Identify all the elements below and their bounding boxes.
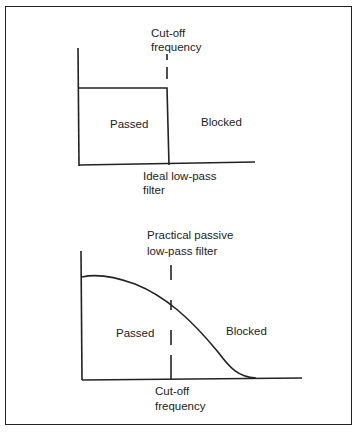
practical-filter-chart (81, 251, 302, 380)
top-title-line2: frequency (151, 40, 202, 54)
bottom-caption-line2: frequency (155, 399, 206, 413)
top-caption-line2: filter (143, 183, 165, 197)
bottom-passed-label: Passed (116, 326, 154, 340)
diagram-graphics (0, 0, 361, 432)
top-blocked-label: Blocked (201, 115, 242, 129)
top-x-axis (79, 162, 255, 165)
top-y-axis (78, 48, 79, 166)
top-passed-label: Passed (110, 117, 148, 131)
bottom-x-axis (82, 378, 302, 380)
bottom-y-axis (81, 251, 82, 380)
top-title-line1: Cut-off (151, 26, 185, 40)
bottom-title-line2: low-pass filter (147, 244, 217, 258)
bottom-title-line1: Practical passive (147, 228, 233, 242)
ideal-filter-chart (78, 48, 255, 166)
bottom-caption-line1: Cut-off (155, 384, 189, 398)
bottom-blocked-label: Blocked (226, 324, 267, 338)
top-caption-line1: Ideal low-pass (143, 169, 217, 183)
